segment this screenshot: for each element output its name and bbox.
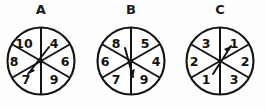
spinner-b-sector-right: 4 bbox=[152, 54, 161, 69]
spinner-b-sector-top-right: 5 bbox=[141, 36, 150, 51]
spinner-b-sector-left: 6 bbox=[101, 54, 110, 69]
spinner-c-label: C bbox=[176, 2, 264, 18]
spinner-b: B 8 5 4 9 7 6 bbox=[87, 0, 175, 109]
spinner-b-sector-bottom-left: 7 bbox=[112, 72, 121, 87]
spinners-figure: A 10 4 6 9 7 8 B 8 5 4 9 7 bbox=[0, 0, 266, 109]
spinner-a-label: A bbox=[0, 2, 85, 18]
spinner-a-sector-top-left: 10 bbox=[15, 36, 33, 51]
spinner-c-sector-top-right: 1 bbox=[230, 36, 239, 51]
spinner-c-sector-right: 2 bbox=[241, 54, 250, 69]
spinner-c-sector-bottom-left: 1 bbox=[202, 72, 211, 87]
spinner-a-wheel: 10 4 6 9 7 8 bbox=[0, 21, 85, 101]
spinner-a: A 10 4 6 9 7 8 bbox=[0, 0, 85, 109]
spinner-a-sector-right: 6 bbox=[61, 54, 70, 69]
spinner-a-hub bbox=[39, 59, 43, 63]
spinner-c-sector-top-left: 3 bbox=[202, 36, 211, 51]
spinner-c-sector-left: 2 bbox=[190, 54, 199, 69]
spinner-c-wheel: 3 1 2 3 1 2 bbox=[176, 21, 264, 101]
spinner-b-sector-top-left: 8 bbox=[112, 36, 121, 51]
spinner-c-hub bbox=[218, 59, 222, 63]
spinner-a-sector-top-right: 4 bbox=[50, 36, 59, 51]
spinner-c: C 3 1 2 3 1 2 bbox=[176, 0, 264, 109]
spinner-b-wheel: 8 5 4 9 7 6 bbox=[87, 21, 175, 101]
spinner-a-sector-left: 8 bbox=[10, 54, 19, 69]
spinner-b-sector-bottom-right: 9 bbox=[140, 72, 149, 87]
spinner-b-hub bbox=[129, 59, 133, 63]
spinner-b-label: B bbox=[87, 2, 175, 18]
spinner-a-sector-bottom-right: 9 bbox=[50, 72, 59, 87]
spinner-c-sector-bottom-right: 3 bbox=[230, 72, 239, 87]
